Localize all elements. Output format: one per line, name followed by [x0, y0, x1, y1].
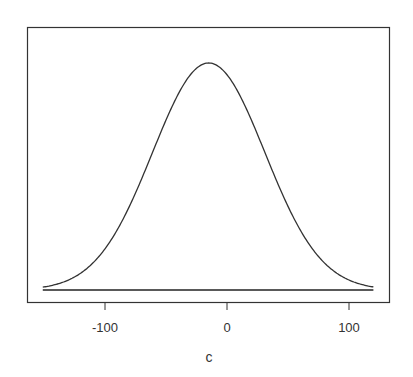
density-curve — [43, 63, 374, 287]
x-tick-label: -100 — [92, 320, 118, 335]
density-chart: -1000100 c — [0, 0, 413, 377]
plot-frame — [28, 28, 390, 303]
x-axis-label: c — [206, 349, 213, 365]
x-tick-label: 100 — [338, 320, 360, 335]
x-axis-ticks: -1000100 — [92, 303, 360, 335]
x-tick-label: 0 — [223, 320, 230, 335]
